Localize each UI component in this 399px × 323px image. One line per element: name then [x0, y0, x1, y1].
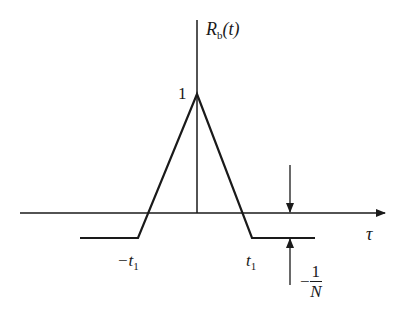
y-axis-label: Rb(t): [206, 20, 240, 38]
neg-t1-label: −t1: [117, 252, 139, 269]
x-axis-label: τ: [366, 225, 372, 243]
autocorrelation-plot: [0, 0, 399, 323]
pos-t1-label: t1: [246, 252, 256, 269]
peak-value-label: 1: [178, 85, 187, 102]
negative-level-label: −1N: [300, 263, 322, 300]
